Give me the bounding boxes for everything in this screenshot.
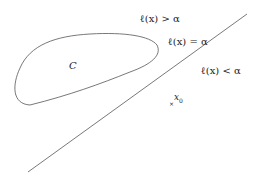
diagram-canvas <box>0 0 253 180</box>
set-c-label: C <box>69 61 77 71</box>
region-below-label: ℓ(x) < α <box>201 66 241 76</box>
point-label: x0 <box>174 93 183 104</box>
region-above-label: ℓ(x) > α <box>140 14 180 24</box>
boundary-label: ℓ(x) = α <box>168 37 208 47</box>
set-c-outline <box>15 33 158 105</box>
point-label-subscript: 0 <box>179 97 183 104</box>
